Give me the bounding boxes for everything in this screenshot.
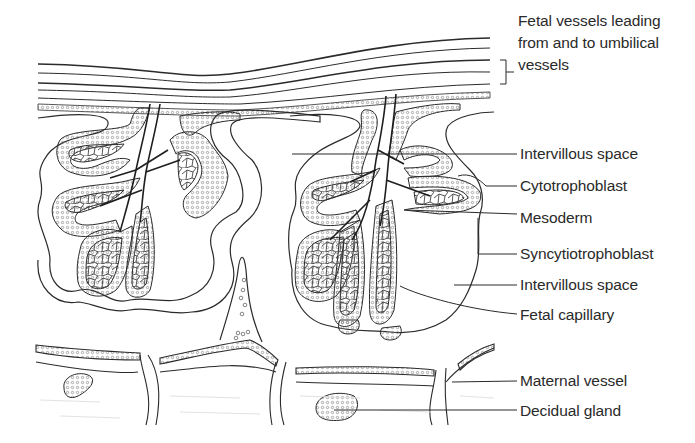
label-fetal-vessels: Fetal vessels leading from and to umbili… [518, 10, 688, 76]
label-intervillous-space-lower: Intervillous space [520, 276, 638, 294]
label-mesoderm: Mesoderm [520, 209, 592, 227]
chorionic-plate [38, 38, 490, 104]
right-villi [295, 104, 480, 340]
label-syncytiotrophoblast: Syncytiotrophoblast [520, 245, 653, 263]
label-cytotrophoblast: Cytotrophoblast [520, 177, 627, 195]
label-maternal-vessel: Maternal vessel [520, 372, 627, 390]
decidua-tissue [40, 396, 494, 418]
label-fetal-capillary: Fetal capillary [520, 306, 614, 324]
label-intervillous-space-upper: Intervillous space [520, 145, 638, 163]
label-decidual-gland: Decidual gland [520, 402, 621, 420]
